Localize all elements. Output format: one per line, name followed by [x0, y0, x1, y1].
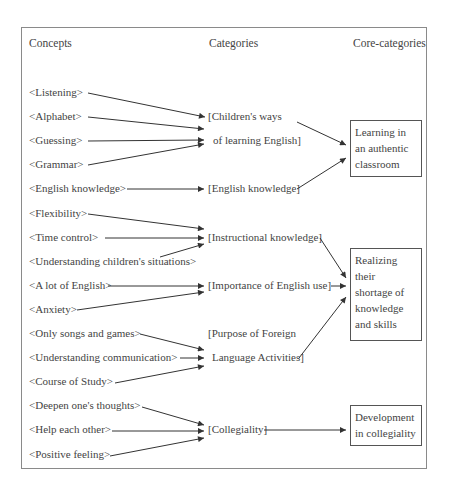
- arrow-only-songs: [140, 334, 204, 350]
- arrow-course-of-study: [115, 366, 204, 383]
- arrow-english-knowledge-to-core: [297, 158, 346, 189]
- arrow-flexibility: [88, 214, 204, 229]
- arrow-understanding-situations: [160, 244, 204, 257]
- arrow-purpose-to-core: [299, 297, 346, 358]
- arrow-positive-feeling: [110, 438, 204, 456]
- connector-arrows: [0, 0, 449, 494]
- arrow-listening: [88, 93, 205, 117]
- arrow-guessing: [88, 140, 204, 141]
- arrow-grammar: [88, 144, 204, 165]
- arrow-childrens-ways-to-core: [297, 122, 346, 145]
- arrow-anxiety: [77, 292, 204, 310]
- arrow-alphabet: [88, 117, 204, 129]
- arrow-deepen: [142, 407, 204, 425]
- arrow-instructional-to-core: [320, 238, 346, 278]
